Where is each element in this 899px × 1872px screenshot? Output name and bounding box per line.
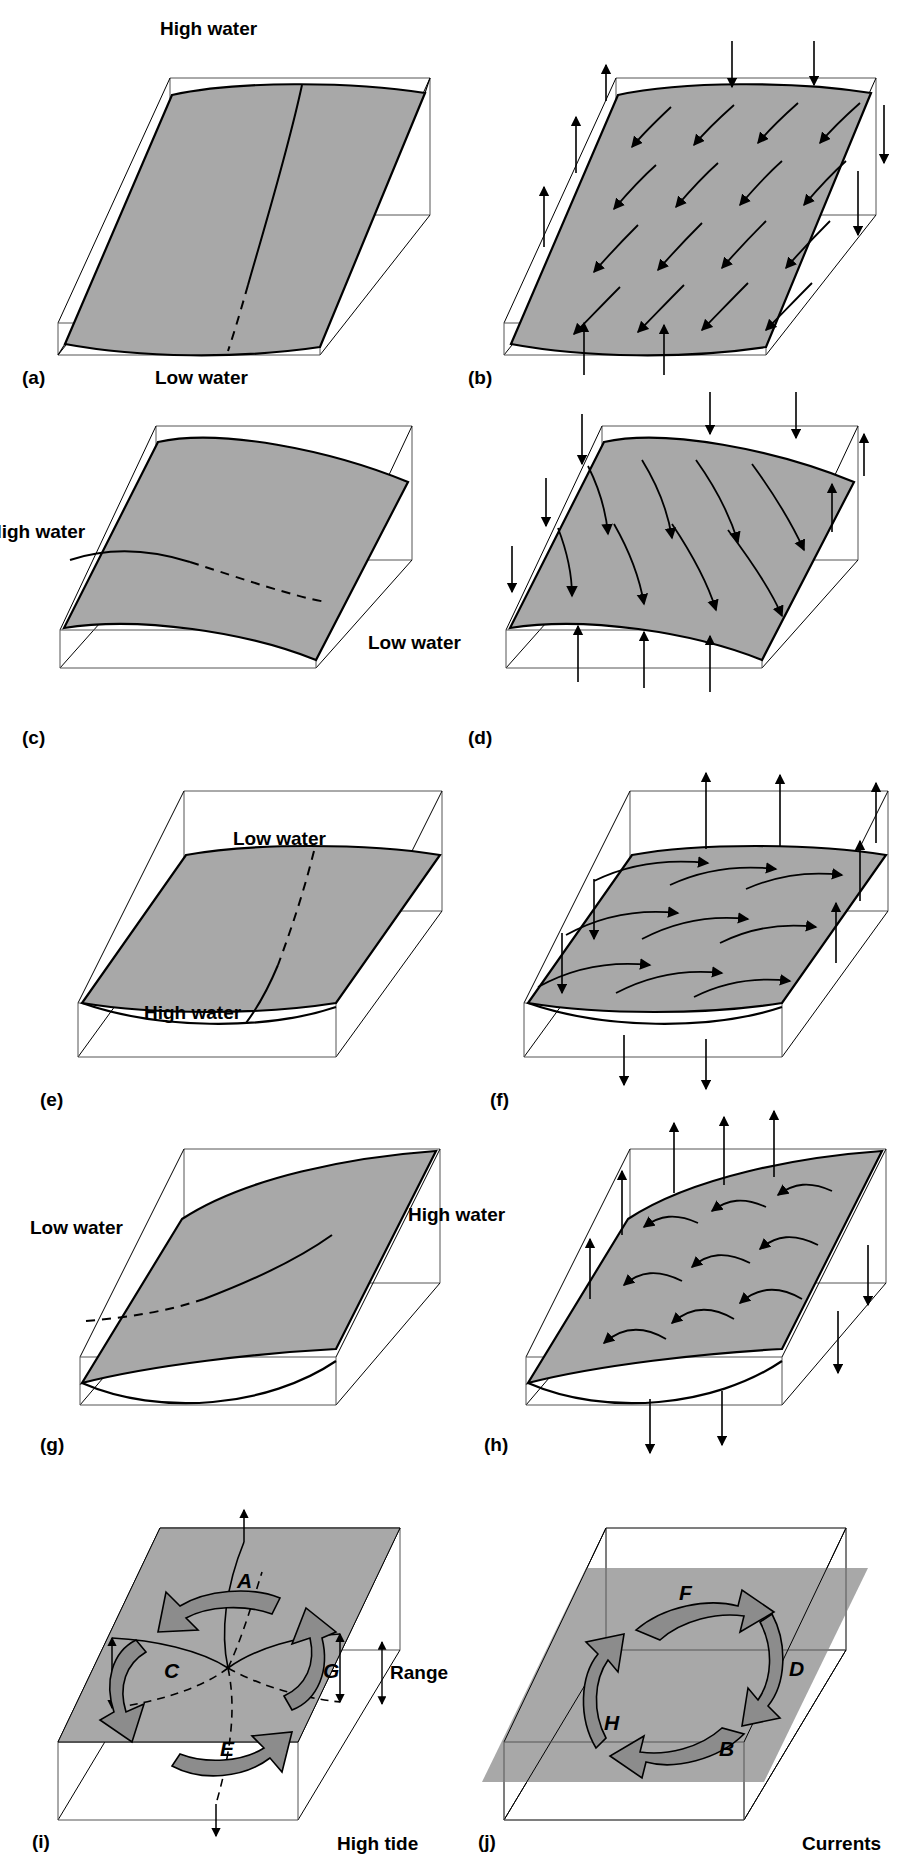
panel-f bbox=[484, 785, 899, 1080]
panel-a-tag: (a) bbox=[22, 368, 45, 387]
panel-a: High water Low water bbox=[20, 55, 450, 365]
panel-f-tag: (f) bbox=[490, 1090, 509, 1109]
panel-e-high-water-label: High water bbox=[144, 1003, 241, 1022]
panel-e: Low water High water bbox=[38, 785, 453, 1080]
panel-g-low-water-label: Low water bbox=[30, 1218, 123, 1237]
panel-i-label-A: A bbox=[237, 1570, 252, 1591]
panel-e-low-water-label: Low water bbox=[233, 829, 326, 848]
panel-j-tag: (j) bbox=[478, 1832, 496, 1851]
panel-g-graphic bbox=[32, 1135, 452, 1435]
panel-f-graphic bbox=[484, 785, 899, 1080]
panel-a-low-water-label: Low water bbox=[155, 368, 248, 387]
panel-j: F D H B Currents bbox=[476, 1520, 896, 1850]
panel-c-low-water-label: Low water bbox=[368, 633, 461, 652]
panel-j-label-H: H bbox=[604, 1712, 619, 1733]
panel-d-graphic bbox=[496, 420, 896, 710]
panel-h-graphic bbox=[478, 1135, 898, 1435]
panel-i-label-G: G bbox=[323, 1660, 339, 1681]
panel-b-graphic bbox=[466, 55, 896, 365]
panel-c: High water Low water bbox=[50, 420, 450, 710]
panel-i-label-E: E bbox=[220, 1738, 234, 1759]
panel-c-high-water-label: High water bbox=[0, 522, 85, 541]
panel-i-range-label: Range bbox=[390, 1663, 448, 1682]
panel-a-high-water-label: High water bbox=[160, 19, 257, 38]
panel-g-tag: (g) bbox=[40, 1435, 64, 1454]
panel-j-label-D: D bbox=[789, 1658, 804, 1679]
panel-a-graphic bbox=[20, 55, 450, 365]
panel-j-label-F: F bbox=[679, 1582, 692, 1603]
panel-i: A C E G Range High tide bbox=[30, 1520, 450, 1850]
panel-i-high-tide-label: High tide bbox=[337, 1834, 418, 1853]
panel-h-tag: (h) bbox=[484, 1435, 508, 1454]
panel-c-graphic bbox=[50, 420, 450, 710]
panel-j-label-B: B bbox=[719, 1738, 734, 1759]
panel-c-tag: (c) bbox=[22, 728, 45, 747]
panel-j-graphic bbox=[476, 1520, 896, 1850]
panel-e-tag: (e) bbox=[40, 1090, 63, 1109]
panel-b bbox=[466, 55, 896, 365]
panel-d-tag: (d) bbox=[468, 728, 492, 747]
panel-g: Low water High water bbox=[32, 1135, 452, 1435]
panel-d bbox=[496, 420, 896, 710]
panel-i-tag: (i) bbox=[32, 1832, 50, 1851]
panel-h bbox=[478, 1135, 898, 1435]
panel-b-tag: (b) bbox=[468, 368, 492, 387]
figure-sheet: High water Low water (a) bbox=[0, 0, 899, 1872]
panel-i-label-C: C bbox=[164, 1660, 179, 1681]
panel-j-currents-label: Currents bbox=[802, 1834, 881, 1853]
